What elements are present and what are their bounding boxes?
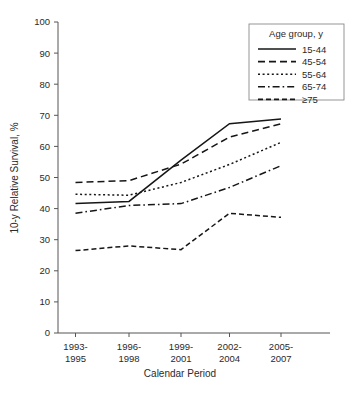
x-tick-label: 1993- xyxy=(63,341,87,352)
y-tick-label: 50 xyxy=(39,172,50,183)
x-axis-title: Calendar Period xyxy=(144,368,216,379)
y-axis-title: 10-y Relative Survival, % xyxy=(9,122,20,233)
y-tick-label: 40 xyxy=(39,203,50,214)
x-tick-label: 2007 xyxy=(270,353,291,364)
x-tick-label: 2002- xyxy=(217,341,241,352)
x-tick-label: 2005- xyxy=(269,341,293,352)
chart-figure: 0102030405060708090100 1993-19951996-199… xyxy=(0,0,352,395)
legend-label-75: ≥75 xyxy=(302,94,318,105)
legend-label-55-64: 55-64 xyxy=(302,69,326,80)
legend-label-45-54: 45-54 xyxy=(302,56,326,67)
y-tick-label: 10 xyxy=(39,296,50,307)
y-tick-label: 80 xyxy=(39,79,50,90)
x-tick-label: 1995 xyxy=(65,353,86,364)
x-tick-label: 1998 xyxy=(118,353,139,364)
x-tick-label: 2001 xyxy=(170,353,191,364)
legend-label-65-74: 65-74 xyxy=(302,81,326,92)
line-chart: 0102030405060708090100 1993-19951996-199… xyxy=(0,0,352,395)
y-tick-label: 20 xyxy=(39,265,50,276)
y-tick-label: 70 xyxy=(39,110,50,121)
legend-title: Age group, y xyxy=(269,28,323,39)
y-tick-label: 30 xyxy=(39,234,50,245)
y-tick-label: 0 xyxy=(45,327,50,338)
y-tick-label: 100 xyxy=(34,16,50,27)
y-tick-label: 60 xyxy=(39,141,50,152)
y-tick-label: 90 xyxy=(39,48,50,59)
x-tick-label: 2004 xyxy=(219,353,240,364)
x-tick-label: 1999- xyxy=(169,341,193,352)
legend: Age group, y 15-4445-5455-6465-74≥75 xyxy=(249,24,344,105)
x-tick-label: 1996- xyxy=(117,341,141,352)
legend-label-15-44: 15-44 xyxy=(302,44,326,55)
